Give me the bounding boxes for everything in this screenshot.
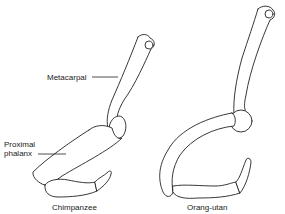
label-proximal-phalanx-line2: phalanx (4, 149, 32, 158)
orangutan-metacarpal (234, 6, 275, 114)
caption-chimpanzee: Chimpanzee (52, 203, 97, 212)
label-proximal-phalanx-line1: Proximal (4, 140, 35, 149)
caption-orangutan: Orang-utan (187, 203, 227, 212)
chimpanzee-middle-phalanx (45, 179, 97, 197)
chimpanzee-metacarpal-head (145, 41, 153, 49)
orangutan-proximal-phalanx (160, 113, 236, 197)
orangutan-distal-phalanx (236, 158, 251, 193)
label-metacarpal: Metacarpal (47, 73, 87, 82)
orangutan-metacarpal-head-2 (265, 10, 273, 18)
chimpanzee-hand (33, 34, 154, 197)
orangutan-hand (160, 6, 275, 198)
orangutan-middle-phalanx (173, 182, 240, 198)
hand-bones-diagram (0, 0, 285, 214)
chimpanzee-distal-phalanx (95, 171, 111, 191)
